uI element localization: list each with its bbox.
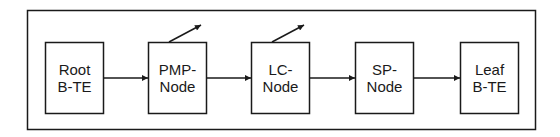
node-label-line: Root xyxy=(59,61,92,78)
node-label-line: B-TE xyxy=(472,78,506,95)
node-label-line: LC- xyxy=(268,61,292,78)
node-label-line: Node xyxy=(263,78,299,95)
node-label-line: PMP- xyxy=(159,61,197,78)
node-pmp: PMP-Node xyxy=(149,25,207,114)
nodes: RootB-TEPMP-NodeLC-NodeSP-NodeLeafB-TE xyxy=(46,25,519,114)
node-label-line: B-TE xyxy=(57,78,91,95)
node-label-line: Leaf xyxy=(475,61,505,78)
node-label-line: Node xyxy=(160,78,196,95)
node-leaf: LeafB-TE xyxy=(461,43,519,114)
node-lc: LC-Node xyxy=(252,25,310,114)
node-sp: SP-Node xyxy=(356,43,414,114)
node-label-line: Node xyxy=(367,78,403,95)
node-root: RootB-TE xyxy=(46,43,104,114)
node-label-line: SP- xyxy=(372,61,397,78)
variable-arrow-icon xyxy=(272,25,304,42)
variable-arrow-icon xyxy=(169,25,201,42)
block-diagram: RootB-TEPMP-NodeLC-NodeSP-NodeLeafB-TE xyxy=(0,0,560,137)
